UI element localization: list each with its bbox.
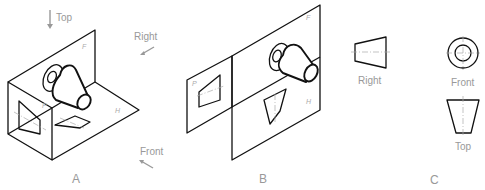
plane-label-p-b: P — [192, 80, 197, 87]
top-arrow-icon — [47, 10, 53, 29]
plane-label-h-a: H — [115, 107, 121, 114]
truncated-cone-a — [53, 65, 94, 112]
profile-panel-b — [187, 56, 232, 133]
panel-c-orthographic-views: Right Front Top C — [351, 36, 480, 187]
front-direction-label: Front — [140, 146, 164, 157]
panel-a-isometric-planes: Top Right Front F H P — [8, 10, 164, 186]
plane-label-f-a: F — [82, 43, 87, 50]
plane-label-h-b: H — [306, 98, 312, 105]
panel-a-label: A — [72, 172, 80, 186]
right-view-label: Right — [358, 75, 382, 86]
profile-projection-a — [19, 101, 40, 134]
plane-label-p-a: P — [42, 102, 47, 109]
orthographic-projection-figure: Top Right Front F H P — [0, 0, 485, 190]
right-view — [355, 37, 386, 68]
panel-b-label: B — [259, 172, 267, 186]
front-arrow-icon — [139, 160, 153, 168]
panel-c-label: C — [430, 173, 439, 187]
plane-label-f-b: F — [306, 14, 311, 21]
front-view-label: Front — [451, 77, 475, 88]
frontal-plane-a — [8, 30, 95, 82]
top-view-label: Top — [455, 141, 472, 152]
right-direction-label: Right — [134, 31, 158, 42]
right-arrow-icon — [140, 47, 154, 55]
top-direction-label: Top — [56, 12, 73, 23]
panel-b-unfolded-planes: F H P B — [187, 5, 321, 186]
front-view — [446, 36, 480, 70]
truncated-cone-b — [279, 45, 321, 84]
